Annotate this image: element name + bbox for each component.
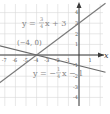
eq2-numerator: 1 [57,66,60,72]
eq1-prefix: y = [21,19,36,28]
eq2-suffix: x − 1 [62,69,83,78]
x-tick-label: -6 [12,57,17,63]
eq1-denominator: 4 [40,23,43,29]
intersection-point-label: (−4, 0) [17,39,42,47]
y-tick-label: 1 [75,41,78,47]
y-tick-label: 4 [75,9,78,15]
eq1-suffix: x + 3 [45,19,66,28]
eq2-denominator: 4 [57,73,60,79]
y-axis-arrow-icon [77,2,82,8]
x-tick-label: -7 [2,57,7,63]
x-tick-label: 1 [88,57,91,63]
x-axis-label: x [104,51,109,60]
y-tick-label: 2 [75,31,78,37]
eq1-numerator: 3 [40,16,43,22]
y-tick-label: -4 [73,94,78,100]
y-tick-label: -3 [73,84,78,90]
coordinate-plane: x -7-6-5-4-3-2-114321-1-2-3-4 y = 3 4 x … [0,0,110,114]
eq2-prefix: y = − [32,69,56,78]
axes: x [0,2,109,106]
x-tick-label: -1 [65,57,70,63]
equation-label-1: y = 3 4 x + 3 [21,16,66,29]
